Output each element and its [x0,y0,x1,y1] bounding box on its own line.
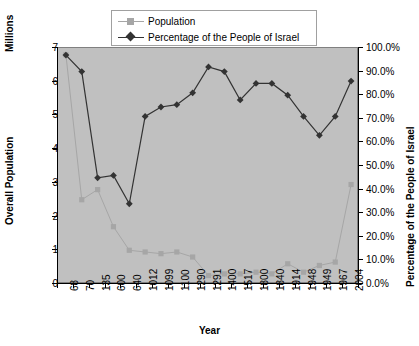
legend-item-population[interactable]: Population [118,14,195,28]
y-axis-left-tick-label: 4 [34,148,58,149]
data-point-diamond [158,104,165,111]
y-axis-right-tickmark [358,259,363,260]
y-axis-right-tick-label: 50.0% [366,165,408,166]
data-point-diamond [94,174,101,181]
data-point-square [317,263,322,268]
y-axis-right-tickmark [358,189,363,190]
y-axis-right-tick-label: 30.0% [366,212,408,213]
data-point-square [238,271,243,276]
y-axis-right-tick-label: 10.0% [366,259,408,260]
series-line [66,55,351,204]
legend-marker-square-icon [118,17,144,26]
y-axis-right-tick-label: 20.0% [366,236,408,237]
y-axis-left-tick-label: 7 [34,47,58,48]
x-axis-tick-label: 640 [132,274,143,291]
x-axis-tick-label: 1290 [196,269,207,291]
data-point-diamond [221,68,228,75]
y-axis-left-title: Overall Population [4,137,15,225]
chart-container: 01234567 0.0%10.0%20.0%30.0%40.0%50.0%60… [0,0,419,346]
x-axis-tick-label: 1099 [164,269,175,291]
y-axis-right-tick-label: 90.0% [366,71,408,72]
data-point-square [143,249,148,254]
data-point-square [269,271,274,276]
data-point-square [127,248,132,253]
x-axis-tick-label: 1967 [338,269,349,291]
y-axis-right-tick-label: 100.0% [366,47,408,48]
chart-legend: Population Percentage of the People of I… [111,10,317,46]
legend-label: Percentage of the People of Israel [148,32,299,43]
data-point-diamond [348,78,355,85]
series-line [66,55,351,276]
x-axis-tick-label: 1400 [227,269,238,291]
x-axis-tick-label: 1517 [243,269,254,291]
x-axis-tickmark [57,284,58,288]
y-axis-left-tick-label: 0 [34,283,58,284]
data-point-square [190,254,195,259]
plot-area [57,47,358,283]
y-axis-right-tickmark [358,94,363,95]
legend-item-percentage[interactable]: Percentage of the People of Israel [118,30,299,44]
data-point-square [111,224,116,229]
y-axis-right-tickmark [358,165,363,166]
data-point-diamond [205,63,212,70]
y-axis-left-tick-label: 1 [34,249,58,250]
y-axis-right-tick-label: 40.0% [366,189,408,190]
x-axis-tick-label: 1100 [180,269,191,291]
legend-label: Population [148,16,195,27]
x-axis-tick-label: 1840 [275,269,286,291]
y-axis-right-tick-label: 0.0% [366,283,408,284]
y-axis-right-tickmark [358,47,363,48]
plot-svg [58,48,359,284]
y-axis-right-tickmark [358,141,363,142]
x-axis-tick-label: 70 [85,280,96,291]
data-point-square [174,249,179,254]
y-axis-right-tick-label: 80.0% [366,94,408,95]
x-axis-tick-label: 135 [101,274,112,291]
y-axis-right-title: Percentage of the People of Israel [405,126,416,287]
data-point-square [285,261,290,266]
x-axis-tick-label: 2004 [354,269,365,291]
x-axis-tick-label: 68 [69,280,80,291]
data-point-diamond [142,113,149,120]
y-axis-right-tickmark [358,118,363,119]
y-axis-right-tick-label: 70.0% [366,118,408,119]
y-axis-left-tick-label: 5 [34,114,58,115]
series-population [63,52,353,278]
data-point-diamond [110,172,117,179]
y-axis-right-tickmark [358,236,363,237]
data-point-square [79,197,84,202]
y-axis-right-tickmark [358,212,363,213]
x-axis-tick-label: 1291 [212,269,223,291]
x-axis-tick-label: 600 [116,274,127,291]
y-axis-right-tickmark [358,71,363,72]
data-point-square [253,270,258,275]
data-point-diamond [126,200,133,207]
x-axis-tick-label: 1012 [148,269,159,291]
y-axis-left-tick-label: 2 [34,216,58,217]
y-axis-left-tick-label: 3 [34,182,58,183]
x-axis-tick-label: 1914 [291,269,302,291]
x-axis-tick-label: 1948 [307,269,318,291]
x-axis-tick-label: 1800 [259,269,270,291]
data-point-square [333,259,338,264]
y-axis-units-label: Millions [4,15,15,52]
y-axis-right-tick-label: 60.0% [366,141,408,142]
legend-marker-diamond-icon [118,33,144,42]
x-axis-tick-label: 1949 [322,269,333,291]
x-axis-title: Year [0,325,419,336]
y-axis-left-tick-label: 6 [34,81,58,82]
data-point-square [158,251,163,256]
data-point-square [348,182,353,187]
data-point-square [95,187,100,192]
series-percentage [63,52,355,207]
